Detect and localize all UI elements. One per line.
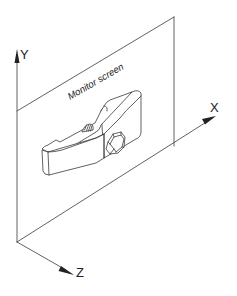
z-axis: Z (17, 242, 84, 280)
z-axis-arrow-icon (59, 266, 75, 275)
bracket-part (42, 91, 141, 175)
y-axis: Y (15, 47, 30, 242)
y-axis-arrow-icon (15, 49, 20, 63)
z-axis-label: Z (76, 265, 84, 280)
isometric-diagram: Y X Z Monitor screen (0, 0, 237, 296)
monitor-screen-label: Monitor screen (66, 61, 126, 102)
y-axis-label: Y (20, 47, 29, 62)
x-axis-label: X (210, 100, 219, 115)
